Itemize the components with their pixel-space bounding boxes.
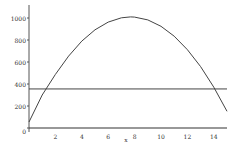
y-tick-label: 0 [22,128,26,135]
parabola-curve [29,17,227,122]
x-tick-label: 4 [80,133,84,140]
y-tick-label: 600 [15,59,27,66]
y-axis: 02004006008001000 [11,5,29,135]
x-axis-label: x [124,136,128,143]
x-tick-label: 2 [53,133,57,140]
x-axis: 2468101214 x [53,133,217,143]
chart: 02004006008001000 2468101214 x [0,0,242,149]
y-tick-label: 400 [15,81,27,88]
y-tick-label: 800 [15,37,27,44]
x-tick-label: 14 [210,133,218,140]
x-tick-label: 10 [157,133,165,140]
x-tick-label: 8 [133,133,137,140]
y-tick-label: 200 [15,103,27,110]
y-tick-label: 1000 [11,15,26,22]
x-tick-label: 6 [106,133,110,140]
x-tick-label: 12 [184,133,192,140]
